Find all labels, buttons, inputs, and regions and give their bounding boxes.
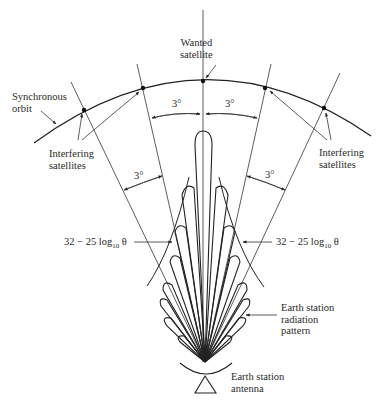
label-line: antenna	[231, 383, 284, 395]
angle-label-top-left: 3°	[172, 98, 181, 109]
label-line: Interfering	[49, 148, 94, 160]
label-line: satellites	[319, 159, 364, 171]
envelope-formula-left: 32 − 25 log10 θ	[64, 236, 127, 250]
antenna-label: Earth station antenna	[231, 371, 284, 394]
interfering-satellite-dot	[322, 106, 326, 110]
interfering-satellite-dot	[263, 86, 267, 90]
label-line: pattern	[281, 325, 334, 337]
satellite-dots	[82, 79, 326, 112]
label-line: Earth station	[281, 302, 334, 314]
formula-prefix: 32 − 25 log	[276, 236, 324, 247]
envelope-formula-right: 32 − 25 log10 θ	[276, 236, 339, 250]
label-line: satellite	[180, 49, 213, 61]
label-line: Earth station	[231, 371, 284, 383]
synchronous-orbit-label: Synchronous orbit	[12, 91, 67, 114]
interfering-satellite-dot	[82, 108, 86, 112]
interfering-satellites-left-label: Interfering satellites	[49, 148, 94, 171]
angle-arcs	[124, 114, 285, 191]
label-line: Wanted	[180, 37, 213, 49]
radiation-pattern-label: Earth station radiation pattern	[281, 302, 334, 337]
envelope-curves	[147, 177, 264, 287]
label-line: radiation	[281, 314, 334, 326]
antenna-dish	[180, 363, 232, 374]
label-line: satellites	[49, 160, 94, 172]
formula-variable: θ	[334, 236, 339, 247]
formula-variable: θ	[122, 236, 127, 247]
angle-label-side-left: 3°	[134, 170, 143, 181]
formula-subscript: 10	[324, 242, 331, 250]
interfering-satellite-dot	[141, 86, 145, 90]
label-line: orbit	[12, 103, 67, 115]
angle-label-top-right: 3°	[225, 98, 234, 109]
interfering-satellites-right-label: Interfering satellites	[319, 147, 364, 170]
wanted-satellite-dot	[201, 79, 205, 83]
wanted-satellite-label: Wanted satellite	[180, 37, 213, 60]
angle-label-side-right: 3°	[265, 169, 274, 180]
antenna-mount	[195, 376, 216, 393]
formula-prefix: 32 − 25 log	[64, 236, 112, 247]
radiation-pattern	[160, 131, 250, 362]
label-line: Synchronous	[12, 91, 67, 103]
label-line: Interfering	[319, 147, 364, 159]
formula-subscript: 10	[112, 242, 119, 250]
satellite-interference-diagram	[0, 0, 382, 406]
